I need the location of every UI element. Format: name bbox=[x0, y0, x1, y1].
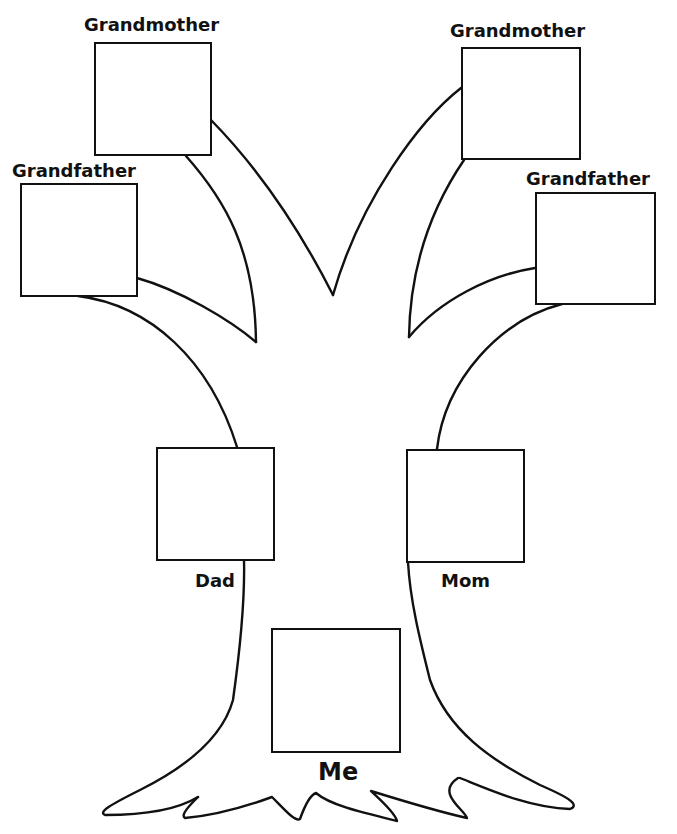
branch-right-grandfather-inner bbox=[409, 268, 535, 337]
label-paternal-grandmother: Grandmother bbox=[84, 14, 219, 35]
branch-right-grandmother-upper bbox=[333, 88, 461, 295]
photo-box-dad[interactable] bbox=[156, 447, 275, 561]
label-dad: Dad bbox=[195, 570, 235, 591]
photo-box-paternal-grandmother[interactable] bbox=[94, 42, 212, 156]
photo-box-me[interactable] bbox=[271, 628, 401, 753]
label-maternal-grandmother: Grandmother bbox=[450, 20, 585, 41]
branch-left-grandmother-lower bbox=[186, 156, 256, 342]
label-paternal-grandfather: Grandfather bbox=[12, 160, 136, 181]
label-me: Me bbox=[318, 758, 358, 786]
label-maternal-grandfather: Grandfather bbox=[526, 168, 650, 189]
photo-box-maternal-grandfather[interactable] bbox=[535, 192, 656, 305]
photo-box-paternal-grandfather[interactable] bbox=[20, 183, 138, 297]
branch-left-grandmother-upper bbox=[211, 120, 333, 295]
trunk-right bbox=[408, 562, 574, 809]
branch-right-outer bbox=[437, 304, 562, 449]
branch-left-outer bbox=[78, 296, 237, 447]
photo-box-maternal-grandmother[interactable] bbox=[461, 47, 581, 160]
trunk-left bbox=[103, 560, 244, 815]
photo-box-mom[interactable] bbox=[406, 449, 525, 563]
branch-left-grandfather-inner bbox=[137, 278, 256, 342]
label-mom: Mom bbox=[441, 570, 490, 591]
